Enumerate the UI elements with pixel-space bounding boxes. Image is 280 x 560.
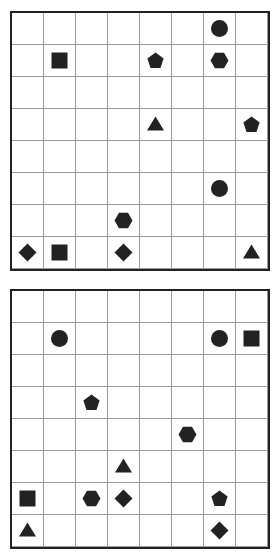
circle-icon: [211, 20, 228, 37]
diamond-icon: [115, 244, 133, 262]
square-icon: [244, 331, 260, 347]
top-board-pieces: [12, 13, 268, 269]
circle-icon: [51, 330, 68, 347]
triangle-icon: [243, 245, 260, 259]
square-icon: [52, 53, 68, 69]
pentagon-icon: [83, 395, 99, 410]
triangle-icon: [147, 117, 164, 131]
circle-icon: [211, 180, 228, 197]
square-icon: [20, 491, 36, 507]
triangle-icon: [19, 523, 36, 537]
bottom-board: [10, 289, 270, 549]
square-icon: [52, 245, 68, 261]
hexagon-icon: [211, 53, 229, 69]
diamond-icon: [19, 244, 37, 262]
pentagon-icon: [147, 53, 163, 68]
triangle-icon: [115, 459, 132, 473]
hexagon-icon: [179, 427, 197, 443]
pentagon-icon: [243, 117, 259, 132]
diamond-icon: [115, 490, 133, 508]
top-board: [10, 11, 270, 271]
circle-icon: [211, 330, 228, 347]
bottom-board-pieces: [12, 291, 268, 547]
pentagon-icon: [211, 491, 227, 506]
hexagon-icon: [83, 491, 101, 507]
diamond-icon: [211, 522, 229, 540]
hexagon-icon: [115, 213, 133, 229]
